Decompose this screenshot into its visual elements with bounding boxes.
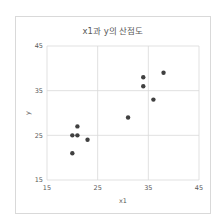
scatter-plot: 15253545 15253545 x1 y — [0, 0, 221, 224]
y-tick-label: 35 — [35, 87, 43, 95]
x-axis-label: x1 — [119, 197, 127, 205]
data-point — [141, 75, 145, 79]
x-axis-ticks: 15253545 — [43, 184, 203, 192]
data-point — [85, 138, 89, 142]
x-tick-label: 25 — [94, 184, 102, 192]
gridlines — [47, 46, 199, 180]
x-tick-label: 35 — [144, 184, 152, 192]
data-point — [126, 115, 130, 119]
data-point — [141, 84, 145, 88]
y-tick-label: 15 — [35, 176, 43, 184]
data-point — [75, 133, 79, 137]
data-point — [70, 133, 74, 137]
y-axis-label: y — [24, 111, 32, 115]
x-tick-label: 45 — [195, 184, 203, 192]
data-point — [75, 124, 79, 128]
data-points — [70, 71, 166, 156]
data-point — [151, 97, 155, 101]
y-axis-ticks: 15253545 — [35, 42, 43, 184]
y-tick-label: 45 — [35, 42, 43, 50]
x-tick-label: 15 — [43, 184, 51, 192]
y-tick-label: 25 — [35, 132, 43, 140]
data-point — [161, 71, 165, 75]
data-point — [70, 151, 74, 155]
